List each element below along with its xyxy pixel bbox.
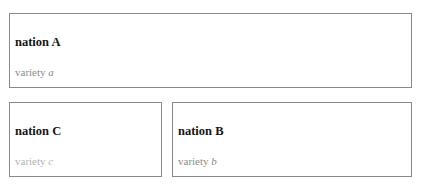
nation-a-box: nation A variety a [9,13,412,88]
variety-b-label: variety b [178,155,217,167]
variety-a-letter: a [48,66,54,78]
variety-b-prefix: variety [178,155,209,167]
nation-a-title: nation A [15,35,61,50]
nation-c-title: nation C [15,124,61,139]
variety-a-prefix: variety [15,66,46,78]
nation-c-box: nation C variety c [9,102,162,177]
variety-b-letter: b [211,155,217,167]
nation-b-box: nation B variety b [172,102,412,177]
variety-c-letter: c [48,155,53,167]
variety-c-prefix: variety [15,155,46,167]
nation-b-title: nation B [178,124,224,139]
variety-c-label: variety c [15,155,53,167]
variety-a-label: variety a [15,66,54,78]
